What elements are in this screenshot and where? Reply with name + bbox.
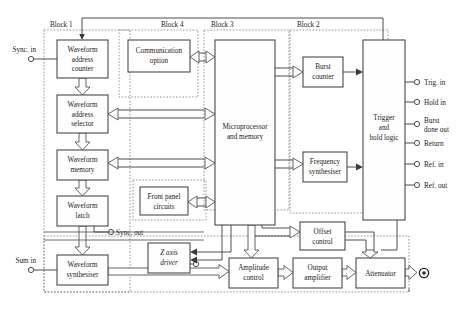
trigger-line3: hold logic bbox=[370, 134, 399, 142]
waveform-memory-line1: Waveform bbox=[67, 156, 98, 164]
arrowhead-freq-in bbox=[293, 158, 303, 170]
arrowhead-fp-left bbox=[188, 196, 197, 208]
sum-in-terminal[interactable] bbox=[28, 267, 33, 272]
unit-waveform-address-selector[interactable]: Waveform address selector bbox=[57, 95, 108, 133]
block-label-3: Block 3 bbox=[211, 21, 234, 29]
sync-out-group[interactable]: Sync. out bbox=[94, 226, 143, 237]
unit-waveform-synthesiser[interactable]: Waveform synthesiser bbox=[57, 255, 108, 285]
sum-in-label: Sum in bbox=[15, 257, 36, 265]
z-axis-driver-line1: Z axis bbox=[160, 249, 178, 257]
arrow-counter-to-selector bbox=[75, 78, 90, 95]
arrowhead-selector-left bbox=[108, 108, 118, 120]
unit-communication-option[interactable]: Communication option bbox=[128, 40, 190, 72]
sync-out-label: Sync. out bbox=[116, 229, 143, 237]
block-label-2: Block 2 bbox=[297, 21, 320, 29]
ref-out-terminal[interactable] bbox=[414, 182, 419, 187]
output-amplifier-line1: Output bbox=[308, 264, 328, 272]
waveform-synthesiser-line2: synthesiser bbox=[67, 271, 100, 279]
waveform-address-counter-line2: address bbox=[72, 56, 94, 64]
trig-in-label: Trig. in bbox=[424, 79, 446, 87]
attenuator-line1: Attenuator bbox=[365, 270, 396, 278]
arrow-selector-to-memory bbox=[75, 133, 90, 150]
arrowhead-memory-left bbox=[108, 157, 118, 169]
return-label: Return bbox=[424, 140, 444, 148]
sync-in-group[interactable]: Sync. in bbox=[12, 46, 57, 62]
z-axis-driver-line2: driver bbox=[160, 259, 178, 267]
bus-frontpanel-micro bbox=[188, 196, 215, 208]
unit-front-panel-circuits[interactable]: Front panel circuits bbox=[140, 187, 188, 215]
ref-in-label: Ref. in bbox=[424, 161, 444, 169]
unit-output-amplifier[interactable]: Output amplifier bbox=[293, 258, 342, 288]
arrowhead-micro-right-d bbox=[206, 196, 215, 208]
unit-burst-counter[interactable]: Burst counter bbox=[303, 57, 343, 87]
unit-frequency-synthesiser[interactable]: Frequency synthesiser bbox=[303, 152, 347, 182]
hold-in-label: Hold in bbox=[424, 99, 446, 107]
microprocessor-line1: Microprocessor bbox=[222, 123, 268, 131]
waveform-synthesiser-line1: Waveform bbox=[67, 261, 98, 269]
burst-done-out-terminal[interactable] bbox=[414, 121, 419, 126]
offset-control-line1: Offset bbox=[314, 228, 332, 236]
waveform-address-selector-line2: address bbox=[72, 111, 94, 119]
amplitude-control-line2: control bbox=[243, 274, 263, 282]
wire-micro-zaxis-b bbox=[196, 225, 222, 260]
block-label-4: Block 4 bbox=[161, 21, 184, 29]
wire-offset-out-b bbox=[345, 240, 366, 250]
wire-micro-offset-bot bbox=[254, 225, 291, 236]
offset-control-line2: control bbox=[312, 238, 332, 246]
wire-micro-zaxis-a bbox=[196, 225, 231, 252]
bus-memory-micro bbox=[108, 157, 215, 169]
return-terminal[interactable] bbox=[414, 140, 419, 145]
waveform-address-selector-line3: selector bbox=[71, 120, 94, 128]
ref-in-terminal[interactable] bbox=[414, 161, 419, 166]
sync-in-terminal[interactable] bbox=[28, 56, 33, 61]
wire-sync-out bbox=[94, 226, 108, 232]
unit-amplitude-control[interactable]: Amplitude control bbox=[229, 258, 278, 288]
sync-in-label: Sync. in bbox=[12, 46, 36, 54]
arrow-outamp-to-attenuator bbox=[342, 266, 356, 280]
unit-offset-control[interactable]: Offset control bbox=[300, 222, 345, 250]
arrowhead-micro-right-b bbox=[205, 157, 215, 169]
arrow-amplitude-to-outamp bbox=[278, 266, 293, 280]
frequency-synthesiser-line1: Frequency bbox=[310, 158, 341, 166]
burst-counter-line2: counter bbox=[312, 73, 334, 81]
unit-waveform-latch[interactable]: Waveform latch bbox=[57, 196, 108, 226]
output-connector-pin bbox=[422, 271, 426, 275]
bus-comm-micro bbox=[190, 51, 215, 63]
frequency-synthesiser-line2: synthesiser bbox=[309, 168, 342, 176]
arrowhead-trigger-in-a bbox=[356, 69, 363, 76]
waveform-address-counter-line3: counter bbox=[72, 65, 94, 73]
unit-waveform-address-counter[interactable]: Waveform address counter bbox=[57, 40, 108, 78]
waveform-latch-line1: Waveform bbox=[67, 202, 98, 210]
arrow-attenuator-to-output bbox=[405, 266, 417, 280]
unit-microprocessor-and-memory[interactable]: Microprocessor and memory bbox=[215, 40, 275, 225]
hold-in-terminal[interactable] bbox=[414, 99, 419, 104]
front-panel-circuits-line1: Front panel bbox=[148, 193, 181, 201]
front-panel-circuits-line2: circuits bbox=[153, 203, 174, 211]
main-output-connector[interactable] bbox=[419, 268, 428, 277]
amplitude-control-line1: Amplitude bbox=[238, 264, 269, 272]
ref-out-label: Ref. out bbox=[424, 182, 447, 190]
arrow-memory-to-latch bbox=[75, 180, 90, 196]
arrow-offset-down-attenuator bbox=[362, 250, 378, 258]
communication-option-line1: Communication bbox=[136, 47, 183, 55]
unit-trigger-and-hold-logic[interactable]: Trigger and hold logic bbox=[363, 40, 405, 220]
block-label-1: Block 1 bbox=[50, 21, 73, 29]
arrow-micro-to-amplitude bbox=[244, 225, 259, 258]
output-amplifier-line2: amplifier bbox=[304, 274, 331, 282]
trig-in-terminal[interactable] bbox=[414, 79, 419, 84]
burst-done-out-label-line2: done out bbox=[424, 126, 449, 134]
block-diagram-canvas: Block 1 Block 4 Block 3 Block 2 Sync. in… bbox=[0, 0, 465, 314]
unit-attenuator[interactable]: Attenuator bbox=[356, 258, 405, 288]
arrowhead-zaxis-in-a bbox=[190, 249, 197, 256]
communication-option-line2: option bbox=[150, 57, 169, 65]
burst-done-out-label-line1: Burst bbox=[424, 117, 440, 125]
unit-waveform-memory[interactable]: Waveform memory bbox=[57, 150, 108, 180]
burst-counter-line1: Burst bbox=[315, 63, 331, 71]
arrowhead-micro-right-a bbox=[205, 108, 215, 120]
bus-selector-micro bbox=[108, 108, 215, 120]
arrowhead-micro-right-c bbox=[206, 51, 215, 63]
trigger-line2: and bbox=[379, 124, 390, 132]
trigger-line1: Trigger bbox=[373, 114, 395, 122]
sum-in-group[interactable]: Sum in bbox=[15, 257, 57, 273]
unit-z-axis-driver[interactable]: Z axis driver bbox=[148, 243, 190, 273]
